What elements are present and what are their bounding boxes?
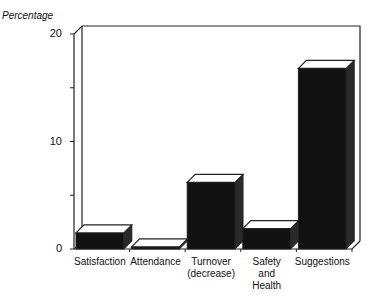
category-label: Suggestions	[290, 256, 354, 268]
bar-suggestions	[298, 60, 354, 249]
bar-safety-and-health	[243, 221, 299, 249]
category-label: SafetyandHealth	[235, 256, 299, 292]
category-label: Satisfaction	[68, 256, 132, 268]
category-label: Attendance	[124, 256, 188, 268]
bar-turnover-decrease	[187, 174, 243, 249]
category-label: Turnover(decrease)	[179, 256, 243, 280]
bar-attendance	[132, 239, 188, 249]
bar-satisfaction	[76, 225, 132, 249]
